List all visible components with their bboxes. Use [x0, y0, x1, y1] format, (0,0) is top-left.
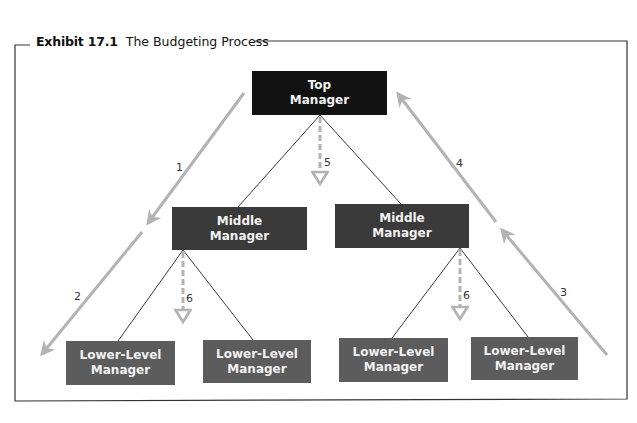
exhibit-title: Exhibit 17.1The Budgeting Process — [36, 34, 269, 50]
top-manager-line1: Top — [290, 78, 349, 93]
lower-4-line1: Lower-Level — [484, 344, 566, 359]
step-label-3: 3 — [560, 287, 567, 299]
step-label-1: 1 — [176, 162, 183, 174]
lower-1-line2: Manager — [80, 363, 162, 378]
lower-level-manager-3-box: Lower-LevelManager — [339, 338, 448, 382]
exhibit-title-text: The Budgeting Process — [126, 34, 269, 49]
flow-arrow-1 — [148, 93, 244, 223]
middle-right-line2: Manager — [372, 226, 431, 241]
step-label-5: 5 — [324, 157, 331, 169]
middle-left-line1: Middle — [210, 214, 269, 229]
step-label-2: 2 — [74, 291, 81, 303]
middle-right-line1: Middle — [372, 211, 431, 226]
lower-4-line2: Manager — [484, 359, 566, 374]
top-manager-box: TopManager — [252, 71, 387, 115]
step-label-4: 4 — [456, 158, 463, 170]
middle-manager-left-box: MiddleManager — [172, 207, 307, 250]
lower-level-manager-1-box: Lower-LevelManager — [66, 341, 175, 385]
lower-level-manager-4-box: Lower-LevelManager — [471, 337, 578, 380]
middle-left-line2: Manager — [210, 229, 269, 244]
step-label-6-right: 6 — [463, 290, 470, 302]
step-label-6-left: 6 — [186, 293, 193, 305]
top-manager-line2: Manager — [290, 93, 349, 108]
lower-1-line1: Lower-Level — [80, 348, 162, 363]
lower-3-line2: Manager — [353, 360, 435, 375]
lower-level-manager-2-box: Lower-LevelManager — [203, 340, 311, 383]
exhibit-number: Exhibit 17.1 — [36, 34, 118, 49]
middle-manager-right-box: MiddleManager — [335, 204, 469, 248]
flow-arrow-4 — [398, 94, 496, 222]
lower-2-line2: Manager — [216, 362, 298, 377]
flow-arrow-2 — [42, 232, 142, 354]
lower-2-line1: Lower-Level — [216, 347, 298, 362]
lower-3-line1: Lower-Level — [353, 345, 435, 360]
